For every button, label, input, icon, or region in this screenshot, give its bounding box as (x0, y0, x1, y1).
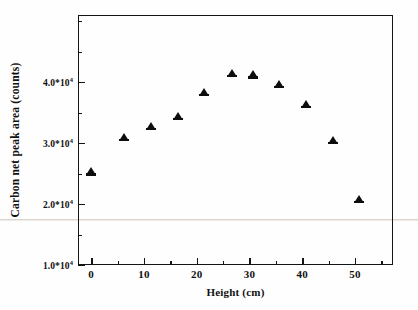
x-tick-label-40: 40 (297, 268, 308, 280)
x-tick-20 (197, 258, 198, 265)
x-tick-0 (91, 258, 92, 265)
chart-figure: Carbon net peak area (counts) 0102030405… (0, 0, 418, 310)
x-tick-30 (249, 258, 250, 265)
data-point (227, 69, 237, 77)
y-tick-40000 (78, 82, 85, 83)
y-tick-label-30000: 3.0*104 (43, 137, 73, 149)
x-tick-45 (329, 261, 330, 265)
data-point (146, 122, 156, 130)
y-tick-label-20000: 2.0*104 (43, 198, 73, 210)
data-point (173, 112, 183, 120)
x-tick-50 (355, 258, 356, 265)
y-axis-title: Carbon net peak area (counts) (6, 0, 24, 280)
y-tick-25000 (78, 174, 82, 175)
data-point (248, 70, 258, 78)
data-point (199, 88, 209, 96)
x-tick-25 (223, 261, 224, 265)
x-tick-label-30: 30 (244, 268, 255, 280)
data-point (119, 133, 129, 141)
data-point (354, 195, 364, 203)
y-tick-15000 (78, 235, 82, 236)
x-tick-label-50: 50 (349, 268, 360, 280)
plot-area (78, 15, 393, 265)
y-tick-label-40000: 4.0*104 (43, 76, 73, 88)
x-tick-55 (381, 261, 382, 265)
data-point (328, 136, 338, 144)
x-tick-5 (118, 261, 119, 265)
y-tick-35000 (78, 113, 82, 114)
x-tick-label-10: 10 (138, 268, 149, 280)
x-tick-15 (170, 261, 171, 265)
x-tick-40 (302, 258, 303, 265)
y-tick-10000 (78, 265, 85, 266)
x-tick-label-0: 0 (88, 268, 94, 280)
y-tick-20000 (78, 204, 85, 205)
x-axis-title: Height (cm) (78, 286, 393, 298)
y-tick-45000 (78, 52, 82, 53)
y-tick-label-10000: 1.0*104 (43, 259, 73, 271)
y-tick-50000 (78, 21, 82, 22)
data-point (301, 100, 311, 108)
y-tick-30000 (78, 143, 85, 144)
x-tick-35 (276, 261, 277, 265)
x-tick-label-20: 20 (191, 268, 202, 280)
y-axis-title-text: Carbon net peak area (counts) (9, 62, 21, 217)
data-point (274, 80, 284, 88)
x-tick-10 (144, 258, 145, 265)
data-point (86, 167, 96, 175)
